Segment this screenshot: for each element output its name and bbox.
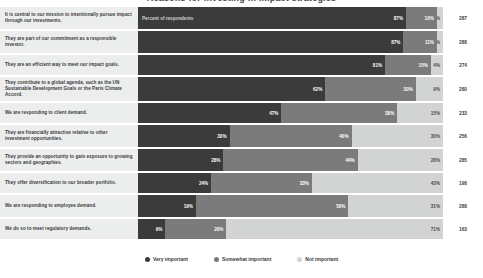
- circle-dot-icon: [297, 257, 302, 262]
- segment-value: 11%: [425, 40, 437, 45]
- bar-segment-2: 15%: [385, 55, 431, 75]
- segment-value: 2%: [437, 16, 443, 21]
- bar-segment-2: 30%: [325, 77, 416, 101]
- row-label: They offer diversification to our broade…: [0, 173, 138, 193]
- legend-item[interactable]: Somewhat important: [214, 256, 271, 262]
- row-label: We are responding to client demand.: [0, 103, 138, 123]
- row-bar: 87%11%2%: [138, 31, 443, 53]
- segment-value: 15%: [431, 111, 443, 116]
- segment-value: 40%: [339, 134, 351, 139]
- chart-row: They provide an opportunity to gain expo…: [0, 149, 483, 171]
- row-n-value: 280: [443, 77, 483, 101]
- bar-segment-1: 47%: [138, 103, 281, 123]
- row-label-text: They are part of our commitment as a res…: [5, 36, 133, 48]
- row-n-value: 256: [443, 125, 483, 147]
- axis-note-percent-of-respondents: Percent of respondents: [142, 16, 193, 21]
- bar-segment-1: 28%: [138, 149, 223, 171]
- row-bar: 62%30%9%: [138, 77, 443, 101]
- segment-value: 28%: [211, 158, 223, 163]
- row-n-value-text: 285: [459, 158, 467, 163]
- row-n-value-text: 274: [459, 63, 467, 68]
- row-label-text: We are responding to employee demand.: [5, 203, 96, 209]
- bar-segment-1: 81%: [138, 55, 385, 75]
- legend-item[interactable]: Not important: [297, 256, 338, 262]
- row-label-text: They offer diversification to our broade…: [5, 180, 116, 186]
- row-label: They are financially attractive relative…: [0, 125, 138, 147]
- row-label-text: They are an efficient way to meet our im…: [5, 62, 119, 68]
- bar-segment-1: 19%: [138, 195, 196, 217]
- row-label-text: They provide an opportunity to gain expo…: [5, 154, 133, 166]
- chart-row: We are responding to client demand.47%38…: [0, 103, 483, 123]
- row-label-text: They are financially attractive relative…: [5, 130, 133, 142]
- chart-row: It is central to our mission to intentio…: [0, 7, 483, 29]
- segment-value: 4%: [433, 63, 443, 68]
- segment-value: 10%: [425, 16, 437, 21]
- row-n-value-text: 288: [459, 40, 467, 45]
- row-label-text: We are responding to client demand.: [5, 110, 87, 116]
- chart-row: We are responding to employee demand.19%…: [0, 195, 483, 217]
- row-n-value-text: 256: [459, 134, 467, 139]
- row-label: They contribute to a global agenda, such…: [0, 77, 138, 101]
- bar-segment-3: 2%: [437, 31, 443, 53]
- row-bar: 28%44%28%: [138, 149, 443, 171]
- legend-item[interactable]: Very important: [145, 256, 188, 262]
- bar-segment-3: 2%: [437, 7, 443, 29]
- segment-value: 28%: [431, 158, 443, 163]
- segment-value: 9%: [156, 227, 166, 232]
- row-bar: 87%10%2%Percent of respondents: [138, 7, 443, 29]
- segment-value: 31%: [431, 204, 443, 209]
- row-n-value: 198: [443, 173, 483, 193]
- bar-track: 9%20%71%: [138, 219, 443, 239]
- row-label: They are part of our commitment as a res…: [0, 31, 138, 53]
- row-bar: 9%20%71%: [138, 219, 443, 239]
- bar-track: 81%15%4%: [138, 55, 443, 75]
- bar-segment-3: 30%: [352, 125, 444, 147]
- row-n-value: 287: [443, 7, 483, 29]
- segment-value: 2%: [437, 40, 443, 45]
- chart-row: They are financially attractive relative…: [0, 125, 483, 147]
- bar-segment-2: 11%: [403, 31, 437, 53]
- chart-title-text: Reasons for investing in impact strategi…: [0, 0, 483, 3]
- bar-segment-2: 40%: [230, 125, 352, 147]
- bar-segment-1: 30%: [138, 125, 230, 147]
- bar-segment-2: 38%: [281, 103, 397, 123]
- row-n-value-text: 233: [459, 111, 467, 116]
- row-label: We are responding to employee demand.: [0, 195, 138, 217]
- bar-segment-2: 20%: [165, 219, 226, 239]
- segment-value: 19%: [184, 204, 196, 209]
- bar-track: 47%38%15%: [138, 103, 443, 123]
- row-label: They provide an opportunity to gain expo…: [0, 149, 138, 171]
- bar-segment-1: 9%: [138, 219, 165, 239]
- chart-row: They offer diversification to our broade…: [0, 173, 483, 193]
- row-n-value: 233: [443, 103, 483, 123]
- chart-row: They are part of our commitment as a res…: [0, 31, 483, 53]
- bar-track: 28%44%28%: [138, 149, 443, 171]
- bar-track: 30%40%30%: [138, 125, 443, 147]
- row-label-text: We do so to meet regulatory demands.: [5, 226, 91, 232]
- row-n-value-text: 198: [459, 181, 467, 186]
- row-n-value: 288: [443, 195, 483, 217]
- bar-track: 87%11%2%: [138, 31, 443, 53]
- segment-value: 30%: [404, 87, 416, 92]
- row-label-text: They contribute to a global agenda, such…: [5, 80, 133, 98]
- segment-value: 81%: [373, 63, 385, 68]
- row-bar: 19%50%31%: [138, 195, 443, 217]
- legend-item-label: Very important: [153, 256, 188, 262]
- bar-segment-3: 43%: [312, 173, 443, 193]
- stacked-bar-chart: It is central to our mission to intentio…: [0, 7, 483, 247]
- bar-segment-1: 62%: [138, 77, 325, 101]
- segment-value: 50%: [336, 204, 348, 209]
- legend-item-label: Not important: [305, 256, 338, 262]
- segment-value: 24%: [199, 181, 211, 186]
- chart-legend: Very importantSomewhat importantNot impo…: [0, 252, 483, 266]
- segment-value: 33%: [300, 181, 312, 186]
- row-bar: 47%38%15%: [138, 103, 443, 123]
- bar-segment-2: 44%: [223, 149, 357, 171]
- row-label-text: It is central to our mission to intentio…: [5, 12, 133, 24]
- row-bar: 30%40%30%: [138, 125, 443, 147]
- bar-track: 24%33%43%: [138, 173, 443, 193]
- bar-segment-3: 4%: [431, 55, 443, 75]
- row-n-value-text: 287: [459, 16, 467, 21]
- row-n-value: 285: [443, 149, 483, 171]
- bar-segment-3: 31%: [348, 195, 443, 217]
